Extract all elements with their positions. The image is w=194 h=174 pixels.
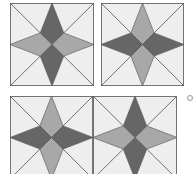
star-tile-top-right (101, 3, 184, 86)
star-tile-bottom-right (93, 96, 177, 174)
star-tile-top-left (10, 3, 94, 86)
small-circle-marker (187, 95, 193, 101)
star-tile-bottom-left (10, 96, 93, 174)
